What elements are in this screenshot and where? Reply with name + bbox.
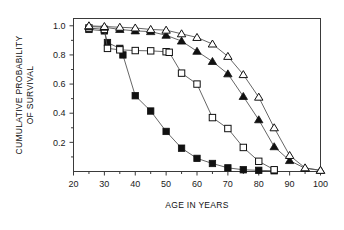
x-tick-label: 90 bbox=[285, 179, 295, 189]
x-tick-label: 70 bbox=[223, 179, 233, 189]
data-point-filled-square bbox=[209, 160, 215, 166]
data-point-filled-square bbox=[178, 145, 184, 151]
data-point-open-triangle bbox=[270, 124, 278, 131]
data-point-open-square bbox=[240, 144, 246, 150]
x-axis-tick-labels: 2030405060708090100 bbox=[68, 179, 328, 189]
data-point-open-square bbox=[166, 49, 172, 55]
x-axis-ticks bbox=[74, 172, 321, 176]
data-point-open-square bbox=[147, 48, 153, 54]
data-point-filled-triangle bbox=[177, 37, 185, 44]
data-point-open-square bbox=[104, 45, 110, 51]
data-point-filled-square bbox=[147, 108, 153, 114]
data-point-filled-triangle bbox=[255, 116, 263, 123]
x-tick-label: 50 bbox=[161, 179, 171, 189]
data-point-open-triangle bbox=[301, 164, 309, 171]
data-point-open-square bbox=[256, 158, 262, 164]
x-tick-label: 30 bbox=[99, 179, 109, 189]
x-tick-label: 80 bbox=[254, 179, 264, 189]
chart-canvas: 2030405060708090100 0.20.40.60.81.0 AGE … bbox=[0, 0, 344, 230]
data-point-open-triangle bbox=[208, 40, 216, 47]
y-axis-title-line2: OF SURVIVAL bbox=[25, 66, 35, 125]
y-axis-title-line1: CUMULATIVE PROBABILITY bbox=[14, 36, 24, 155]
data-point-filled-triangle bbox=[270, 143, 278, 150]
data-point-open-square bbox=[194, 81, 200, 87]
data-point-filled-square bbox=[132, 93, 138, 99]
data-point-open-square bbox=[117, 47, 123, 53]
data-series-group bbox=[85, 22, 325, 174]
data-point-open-triangle bbox=[224, 52, 232, 59]
data-point-filled-square bbox=[240, 167, 246, 173]
y-tick-label: 0.6 bbox=[53, 79, 66, 89]
data-point-filled-square bbox=[225, 165, 231, 171]
y-tick-label: 0.2 bbox=[53, 138, 66, 148]
data-point-open-triangle bbox=[285, 151, 293, 158]
data-point-open-square bbox=[209, 114, 215, 120]
data-point-filled-triangle bbox=[208, 57, 216, 64]
data-point-open-triangle bbox=[255, 93, 263, 100]
x-tick-label: 100 bbox=[313, 179, 328, 189]
x-axis-title: AGE IN YEARS bbox=[165, 200, 228, 210]
y-tick-label: 1.0 bbox=[53, 21, 66, 31]
series-line-open-triangle bbox=[89, 26, 321, 171]
series-open-triangle bbox=[85, 22, 325, 174]
data-point-open-square bbox=[271, 167, 277, 173]
data-point-filled-triangle bbox=[239, 92, 247, 99]
data-point-filled-triangle bbox=[224, 70, 232, 77]
data-point-filled-square bbox=[163, 128, 169, 134]
y-axis-tick-labels: 0.20.40.60.81.0 bbox=[53, 21, 66, 148]
x-tick-label: 20 bbox=[68, 179, 78, 189]
y-tick-label: 0.8 bbox=[53, 50, 66, 60]
data-point-open-square bbox=[132, 47, 138, 53]
survival-curve-figure: 2030405060708090100 0.20.40.60.81.0 AGE … bbox=[0, 0, 344, 230]
y-tick-label: 0.4 bbox=[53, 108, 66, 118]
data-point-filled-square bbox=[194, 155, 200, 161]
y-axis-ticks bbox=[70, 26, 74, 157]
data-point-open-square bbox=[225, 125, 231, 131]
data-point-open-square bbox=[178, 70, 184, 76]
data-point-filled-triangle bbox=[193, 47, 201, 54]
x-tick-label: 40 bbox=[130, 179, 140, 189]
data-point-filled-square bbox=[256, 167, 262, 173]
x-tick-label: 60 bbox=[192, 179, 202, 189]
